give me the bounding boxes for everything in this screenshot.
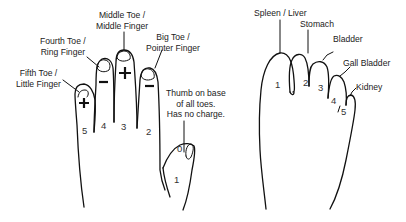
number-toe-1: 1 [275,80,280,90]
label-line: Thumb on base [166,88,226,99]
label-kidney: Kidney [356,82,382,93]
number-toe-5: 5 [341,107,346,117]
number-thumb-tip: 0 [177,144,182,154]
label-line: Fourth Toe / [40,36,86,47]
label-line: Middle Finger [96,21,148,32]
label-line: Has no charge. [166,109,226,120]
label-line: Little Finger [16,79,61,90]
diagram-hand-foot-correspondence: Middle Toe / Middle Finger Fourth Toe / … [0,0,406,222]
label-spleen-liver: Spleen / Liver [254,8,307,19]
number-toe-4: 4 [331,96,336,106]
label-gall-bladder: Gall Bladder [343,58,390,69]
number-thumb-base: 1 [174,175,179,185]
number-toe-3: 3 [318,83,323,93]
label-stomach: Stomach [300,19,334,30]
label-bladder: Bladder [333,34,363,45]
label-line: Big Toe / [146,32,200,43]
label-line: Ring Finger [40,47,86,58]
number-ring-finger: 4 [101,121,106,131]
label-middle-finger: Middle Toe / Middle Finger [96,10,148,31]
label-line: Middle Toe / [96,10,148,21]
label-thumb: Thumb on base of all toes. Has no charge… [166,88,226,120]
label-little-finger: Fifth Toe / Little Finger [16,68,61,89]
label-ring-finger: Fourth Toe / Ring Finger [40,36,86,57]
number-pointer-finger: 2 [146,127,151,137]
label-pointer-finger: Big Toe / Pointer Finger [146,32,200,53]
number-middle-finger: 3 [121,122,126,132]
label-line: of all toes. [166,99,226,110]
label-line: Fifth Toe / [16,68,61,79]
number-toe-2: 2 [303,78,308,88]
number-little-finger: 5 [82,126,87,136]
label-line: Pointer Finger [146,43,200,54]
